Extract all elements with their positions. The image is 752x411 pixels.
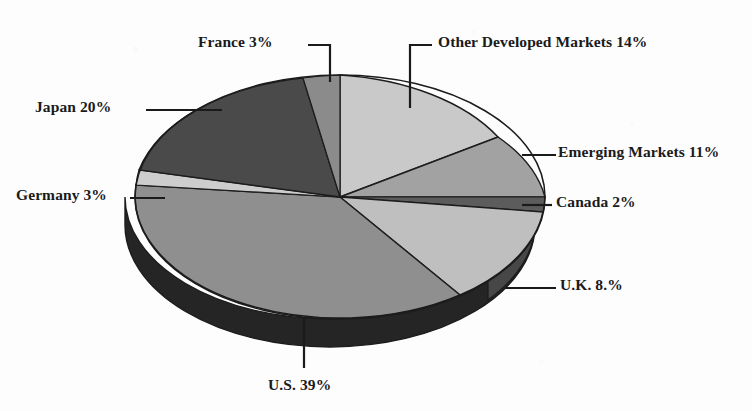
callout-label-canada: Canada 2% [556, 193, 636, 211]
pie-chart-graphic [0, 0, 752, 411]
callout-label-japan: Japan 20% [35, 98, 111, 116]
callout-label-germany: Germany 3% [16, 186, 107, 204]
callout-label-uk: U.K. 8.% [560, 276, 623, 294]
pie-top-face [135, 75, 545, 318]
callout-label-us: U.S. 39% [268, 376, 331, 394]
callout-label-emerging-markets: Emerging Markets 11% [558, 143, 719, 161]
pie-chart-page: France 3% Other Developed Markets 14% Ja… [0, 0, 752, 411]
callout-label-france: France 3% [198, 33, 273, 51]
callout-label-other-developed-markets: Other Developed Markets 14% [438, 33, 647, 51]
